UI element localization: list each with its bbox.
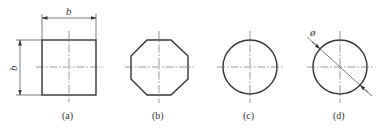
- figure-label-b: (b): [152, 110, 164, 122]
- diameter-symbol: ø: [309, 26, 316, 38]
- figure-d-circle-diameter: ø (d): [307, 26, 374, 122]
- octagon-outline: [131, 40, 188, 95]
- figure-c-circle: (c): [217, 31, 284, 122]
- diagram-canvas: b b (a) (b) (c) ø (d): [0, 0, 383, 131]
- figure-label-c: (c): [243, 110, 254, 122]
- figure-label-a: (a): [62, 110, 73, 122]
- dimension-label-horizontal: b: [66, 5, 72, 17]
- diameter-arrow-upper: [312, 42, 320, 49]
- dimension-label-vertical: b: [7, 65, 19, 71]
- figure-label-d: (d): [333, 110, 345, 122]
- figure-b-octagon: (b): [125, 31, 194, 122]
- figure-a-square: b b (a): [7, 5, 104, 122]
- diameter-arrow-lower: [360, 85, 368, 92]
